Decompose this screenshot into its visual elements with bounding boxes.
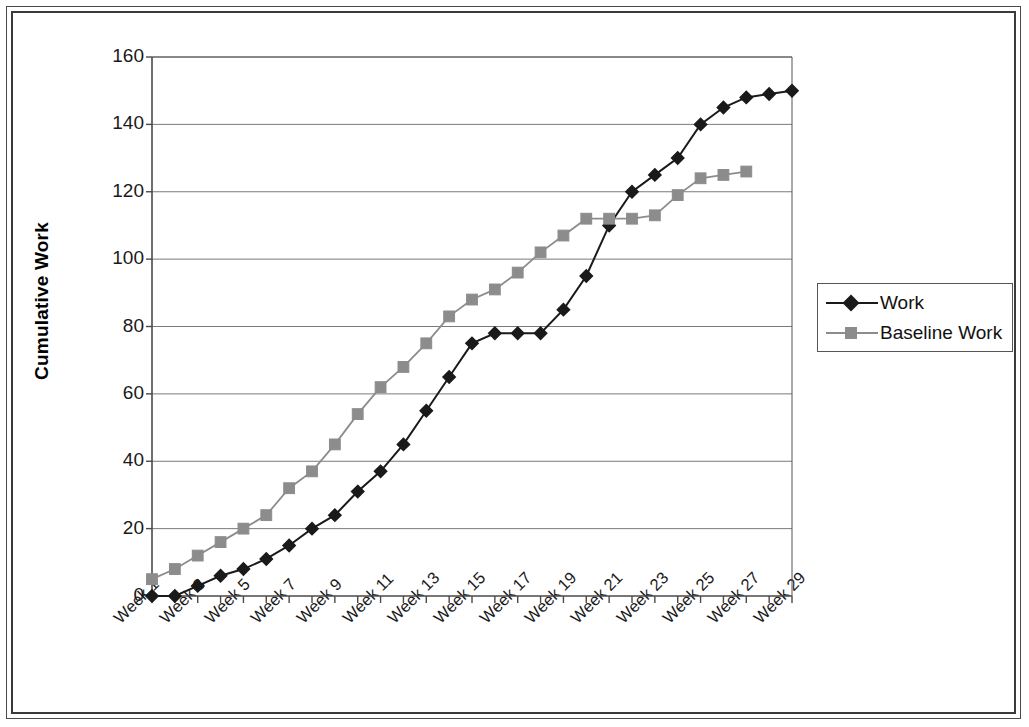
plot-area xyxy=(0,0,1029,727)
legend-item-baseline-work: Baseline Work xyxy=(818,318,1012,348)
legend-key-baseline-work xyxy=(824,323,880,343)
diamond-marker-icon xyxy=(843,295,860,312)
legend-item-work: Work xyxy=(818,288,1012,318)
square-marker-icon xyxy=(845,327,857,339)
chart-screenshot: Cumulative Work 020406080100120140160 We… xyxy=(0,0,1029,727)
legend-label-work: Work xyxy=(880,292,924,314)
chart-legend: Work Baseline Work xyxy=(817,283,1013,352)
legend-label-baseline-work: Baseline Work xyxy=(880,322,1002,344)
legend-key-work xyxy=(824,293,880,313)
